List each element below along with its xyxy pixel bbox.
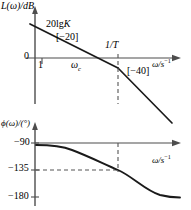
phase-x-axis-exponent: −1 [164, 154, 171, 160]
gain-label-prefix: 20lg [46, 18, 64, 29]
magnitude-tick-one-label: 1 [38, 60, 43, 70]
magnitude-x-axis-label: ω/s−1 [152, 58, 171, 69]
gain-crossover-frequency-label: ωc [71, 60, 81, 73]
magnitude-origin-label: 0 [24, 51, 29, 61]
phase-tick-label-minus90: −90 [14, 137, 30, 147]
phase-tick-label-minus180: −180 [8, 191, 29, 201]
magnitude-y-axis-label: L(ω)/dB [1, 1, 34, 11]
phase-x-axis-arrow [172, 140, 181, 146]
magnitude-slope-40-segment [118, 68, 172, 123]
slope-label-minus20: [−20] [56, 32, 78, 42]
phase-x-axis-base: ω/s [152, 155, 164, 165]
phase-y-axis-label: ϕ(ω)/(°) [1, 119, 30, 128]
crossover-subscript: c [78, 65, 81, 72]
crossover-omega: ω [71, 59, 78, 70]
bode-plot-figure: L(ω)/dB 20lgK [−20] 0 1 ωc 1/T [−40] ω/s… [0, 0, 191, 210]
magnitude-x-axis-exponent: −1 [164, 58, 171, 64]
phase-x-axis-label: ω/s−1 [152, 154, 171, 165]
phase-tick-label-minus135: −135 [8, 163, 29, 173]
bode-plot-canvas [0, 0, 191, 210]
magnitude-x-axis-base: ω/s [152, 59, 164, 69]
gain-label-k: K [64, 18, 71, 29]
magnitude-x-axis-arrow [172, 55, 181, 61]
slope-label-minus40: [−40] [127, 66, 149, 76]
phase-curve [36, 145, 180, 198]
low-frequency-gain-label: 20lgK [46, 19, 70, 29]
phase-y-axis-arrow [32, 122, 38, 130]
corner-frequency-label: 1/T [105, 40, 118, 50]
